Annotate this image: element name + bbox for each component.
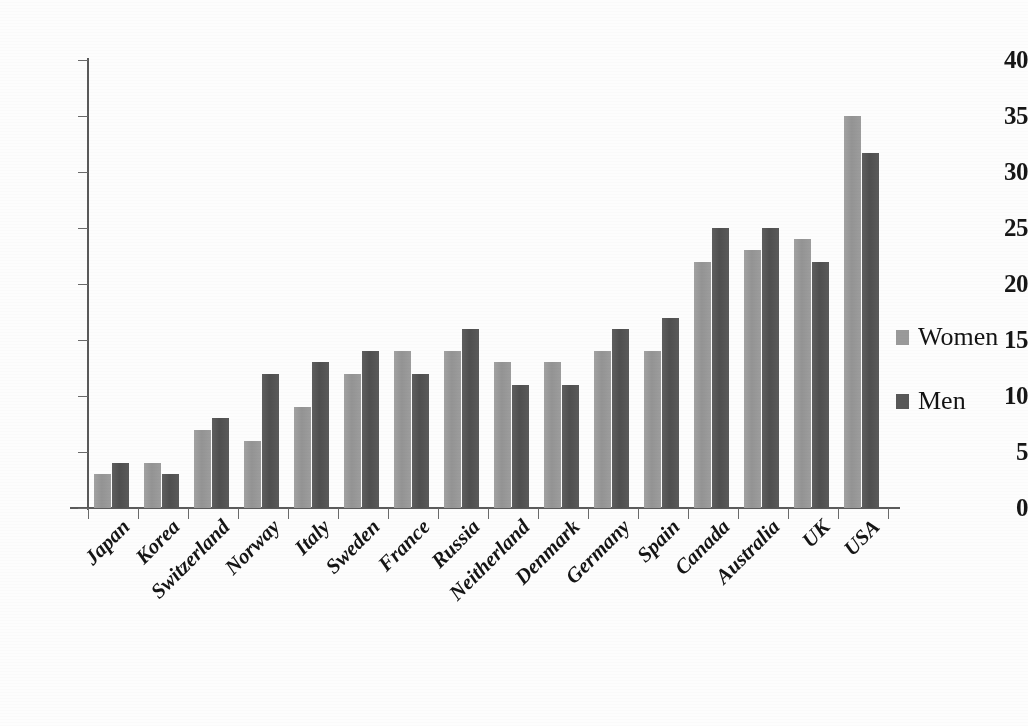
bar-group (788, 60, 838, 508)
bar-group (88, 60, 138, 508)
y-axis-tick-label: 25 (986, 215, 1028, 240)
y-axis-tick-label: 40 (986, 47, 1028, 72)
y-axis-tick-label: 0 (986, 495, 1028, 520)
bar-women[interactable] (244, 441, 261, 508)
bar-women[interactable] (144, 463, 161, 508)
bar-group (388, 60, 438, 508)
bar-men[interactable] (312, 362, 329, 508)
bar-women[interactable] (394, 351, 411, 508)
y-axis-tick (78, 452, 88, 453)
y-axis-tick (78, 228, 88, 229)
x-axis-tick (738, 508, 739, 519)
x-axis-tick (588, 508, 589, 519)
bar-women[interactable] (444, 351, 461, 508)
bar-group (538, 60, 588, 508)
bar-men[interactable] (112, 463, 129, 508)
bar-women[interactable] (594, 351, 611, 508)
x-axis-tick (888, 508, 889, 519)
x-axis-tick (388, 508, 389, 519)
legend-item-women[interactable]: Women (896, 318, 1024, 356)
x-axis-tick (238, 508, 239, 519)
bar-group (638, 60, 688, 508)
y-axis-tick (78, 284, 88, 285)
x-axis-tick (88, 508, 89, 519)
bar-men[interactable] (562, 385, 579, 508)
x-axis-tick (288, 508, 289, 519)
bar-group (488, 60, 538, 508)
bar-men[interactable] (812, 262, 829, 508)
bar-group (188, 60, 238, 508)
x-axis-tick (788, 508, 789, 519)
bar-group (238, 60, 288, 508)
chart-legend: Women Men (896, 318, 1024, 446)
y-axis-tick (78, 396, 88, 397)
legend-label-men: Men (918, 388, 966, 414)
x-axis-tick (688, 508, 689, 519)
bar-men[interactable] (462, 329, 479, 508)
x-axis-tick (338, 508, 339, 519)
y-axis-tick (78, 508, 88, 509)
bar-women[interactable] (544, 362, 561, 508)
bar-group (688, 60, 738, 508)
y-axis-tick (78, 340, 88, 341)
y-axis-tick (78, 172, 88, 173)
bar-women[interactable] (94, 474, 111, 508)
plot-area (88, 60, 888, 508)
x-axis-tick (138, 508, 139, 519)
bar-group (338, 60, 388, 508)
y-axis-tick (78, 116, 88, 117)
bar-women[interactable] (344, 374, 361, 508)
bar-chart: 4035302520151050 JapanKoreaSwitzerlandNo… (0, 0, 1028, 726)
bar-women[interactable] (744, 250, 761, 508)
bar-group (588, 60, 638, 508)
y-axis-tick-label: 20 (986, 271, 1028, 296)
bar-group (738, 60, 788, 508)
bar-men[interactable] (512, 385, 529, 508)
bar-group (288, 60, 338, 508)
bar-men[interactable] (412, 374, 429, 508)
x-axis-tick (488, 508, 489, 519)
bar-group (138, 60, 188, 508)
bar-men[interactable] (362, 351, 379, 508)
y-axis-tick-label: 35 (986, 103, 1028, 128)
bar-men[interactable] (712, 228, 729, 508)
bar-women[interactable] (294, 407, 311, 508)
y-axis-tick-label: 30 (986, 159, 1028, 184)
legend-item-men[interactable]: Men (896, 382, 1024, 420)
bar-women[interactable] (844, 116, 861, 508)
x-axis-tick (188, 508, 189, 519)
bar-men[interactable] (762, 228, 779, 508)
bar-women[interactable] (694, 262, 711, 508)
bar-group (438, 60, 488, 508)
bar-men[interactable] (862, 153, 879, 508)
legend-label-women: Women (918, 324, 998, 350)
x-axis-tick (638, 508, 639, 519)
bar-men[interactable] (662, 318, 679, 508)
x-axis-tick (438, 508, 439, 519)
x-axis-tick (838, 508, 839, 519)
bar-men[interactable] (212, 418, 229, 508)
bar-women[interactable] (494, 362, 511, 508)
bar-men[interactable] (262, 374, 279, 508)
bar-men[interactable] (162, 474, 179, 508)
bar-group (838, 60, 888, 508)
bar-women[interactable] (794, 239, 811, 508)
x-axis-tick (538, 508, 539, 519)
legend-swatch-men-icon (896, 394, 909, 409)
bar-women[interactable] (194, 430, 211, 508)
bar-men[interactable] (612, 329, 629, 508)
bar-women[interactable] (644, 351, 661, 508)
legend-swatch-women-icon (896, 330, 909, 345)
y-axis-tick (78, 60, 88, 61)
